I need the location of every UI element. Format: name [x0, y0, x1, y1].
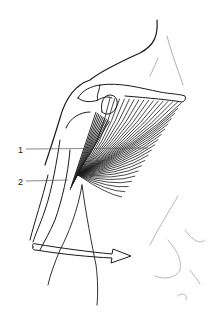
clavicle: [100, 84, 185, 102]
label-2: 2: [18, 177, 23, 187]
label-1: 1: [18, 145, 23, 155]
rib-contour: [150, 196, 205, 300]
arm-outline: [33, 140, 60, 242]
acromion: [78, 85, 100, 102]
pectoralis-major-fibers: [70, 98, 182, 197]
thorax-line: [82, 185, 98, 305]
thorax-line: [48, 185, 82, 285]
leader-line-2: [26, 180, 68, 181]
trapezius-line: [167, 36, 183, 85]
leader-line-1: [26, 148, 148, 149]
neck-shoulder-outline: [45, 20, 157, 165]
trapezius-line: [150, 58, 158, 76]
rotation-arrow-icon: [33, 244, 131, 263]
anatomical-illustration: 1 2: [0, 0, 217, 318]
